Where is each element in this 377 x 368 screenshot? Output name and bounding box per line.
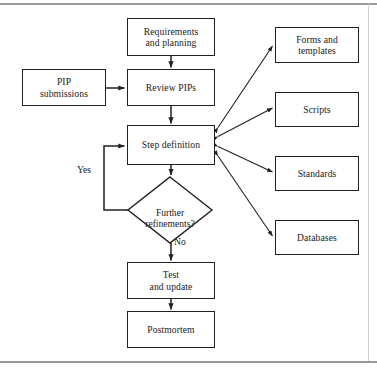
node-label: Scripts xyxy=(303,104,330,115)
node-label: Step definition xyxy=(142,139,200,150)
node-label: Postmortem xyxy=(147,324,194,335)
node-label: Test and update xyxy=(150,269,193,291)
node-postmortem[interactable]: Postmortem xyxy=(127,311,215,348)
edge-step-forms xyxy=(218,46,273,128)
node-standards[interactable]: Standards xyxy=(275,156,359,191)
node-forms-and-templates[interactable]: Forms and templates xyxy=(275,27,359,63)
node-scripts[interactable]: Scripts xyxy=(275,92,359,127)
edge-label-no: No xyxy=(174,236,186,247)
edge-yes-loop xyxy=(104,146,128,210)
node-label: Databases xyxy=(297,232,337,243)
node-label: Requirements and planning xyxy=(144,26,199,48)
edge-step-scripts xyxy=(218,108,273,137)
flowchart-canvas: Requirements and planning PIP submission… xyxy=(0,0,377,368)
edge-label-yes: Yes xyxy=(77,164,91,175)
node-step-definition[interactable]: Step definition xyxy=(127,125,215,165)
node-requirements-and-planning[interactable]: Requirements and planning xyxy=(127,18,215,56)
node-databases[interactable]: Databases xyxy=(275,220,359,255)
node-label: PIP submissions xyxy=(40,76,88,98)
node-pip-submissions[interactable]: PIP submissions xyxy=(22,69,106,106)
node-test-and-update[interactable]: Test and update xyxy=(127,262,215,299)
node-label: Forms and templates xyxy=(296,34,338,56)
node-label: Standards xyxy=(298,168,337,179)
node-review-pips[interactable]: Review PIPs xyxy=(127,69,215,106)
node-label: Review PIPs xyxy=(146,82,196,93)
node-further-refinements-label[interactable]: Further refinements? xyxy=(128,196,212,229)
node-label: Further refinements? xyxy=(145,207,195,229)
